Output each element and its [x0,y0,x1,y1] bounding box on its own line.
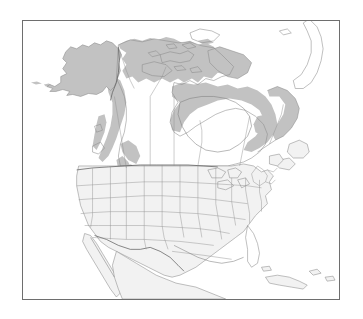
land-newfoundland [287,140,309,158]
land-cuba [265,275,307,289]
land-greenland-islet [279,29,291,35]
map-frame [22,20,340,300]
land-florida [246,226,260,268]
land-greenland [293,21,323,89]
map-figure [0,0,363,319]
range-aleutians [31,82,52,87]
border-manitoba-ontario [198,120,202,166]
border-ontario-quebec [240,116,250,166]
north-america-map [23,21,339,299]
